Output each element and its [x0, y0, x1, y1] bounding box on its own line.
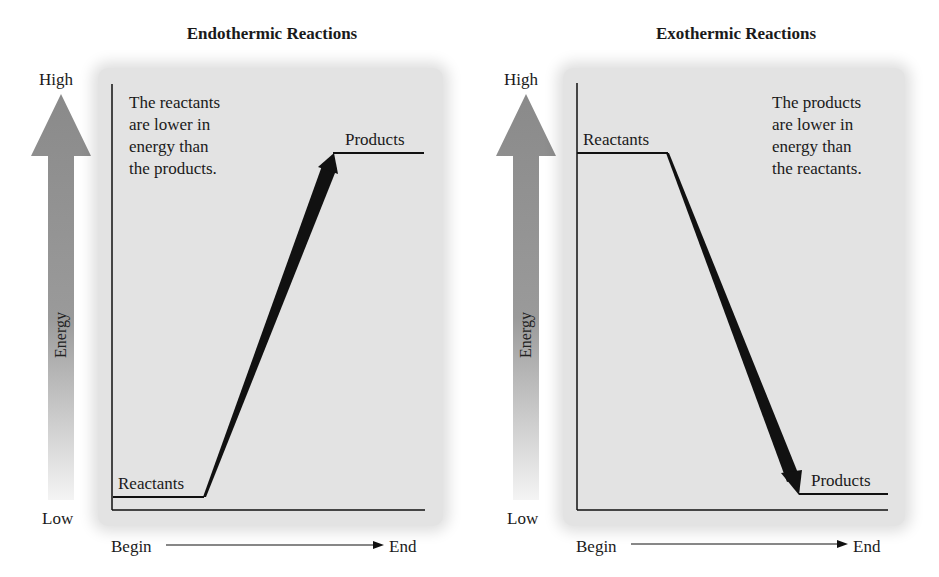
endothermic-transition-arrow-icon [203, 163, 337, 497]
diagram-lines [0, 0, 939, 577]
exothermic-transition-arrow-icon [666, 153, 800, 482]
endothermic-progress-arrowhead-icon [373, 541, 384, 549]
exothermic-progress-arrowhead-icon [837, 540, 848, 548]
exothermic-arrowhead-icon [781, 470, 802, 495]
